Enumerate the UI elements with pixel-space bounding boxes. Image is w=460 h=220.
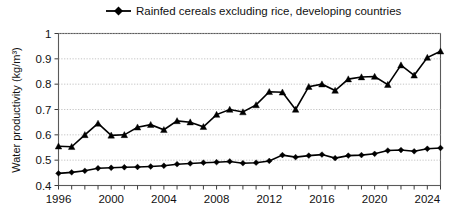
y-tick-label: 1 (45, 28, 51, 40)
water-productivity-line-chart: Rainfed cereals excluding rice, developi… (0, 0, 460, 220)
y-tick-label: 0.6 (36, 129, 52, 141)
x-tick-label: 2024 (415, 193, 441, 205)
y-tick-label: 0.5 (36, 154, 52, 166)
x-tick-label: 2004 (151, 193, 177, 205)
y-tick-label: 0.4 (36, 180, 53, 192)
chart-container: Rainfed cereals excluding rice, developi… (0, 0, 460, 220)
x-tick-label: 2016 (309, 193, 335, 205)
legend-label: Rainfed cereals excluding rice, developi… (136, 5, 402, 17)
x-tick-label: 2012 (256, 193, 282, 205)
x-tick-label: 2008 (204, 193, 230, 205)
y-tick-label: 0.8 (36, 78, 52, 90)
x-tick-label: 1996 (46, 193, 72, 205)
chart-legend: Rainfed cereals excluding rice, developi… (106, 5, 402, 17)
x-tick-label: 2000 (98, 193, 124, 205)
x-tick-label: 2020 (362, 193, 388, 205)
y-tick-label: 0.7 (36, 104, 52, 116)
y-tick-label: 0.9 (36, 53, 52, 65)
y-axis-title: Water productivity (kg/m³) (10, 47, 22, 173)
